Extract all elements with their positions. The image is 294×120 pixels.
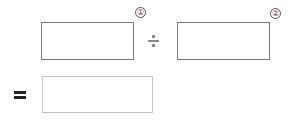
operand-1-input[interactable] <box>42 23 133 59</box>
equals-sign-icon <box>14 90 26 99</box>
result-input[interactable] <box>43 77 152 112</box>
operand-2-box[interactable] <box>177 22 270 60</box>
marker-1-label: ① <box>135 7 146 18</box>
result-box[interactable] <box>42 76 153 113</box>
division-sign-icon <box>148 34 159 48</box>
operand-2-input[interactable] <box>178 23 269 59</box>
operand-1-box[interactable] <box>41 22 134 60</box>
marker-2-label: ② <box>270 8 281 19</box>
